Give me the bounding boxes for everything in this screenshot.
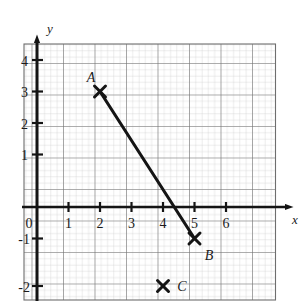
point-label-a: A	[86, 70, 96, 85]
y-tick-label-minus-2: -2	[18, 280, 30, 295]
point-label-b: B	[205, 248, 214, 263]
origin-label: 0	[26, 216, 33, 231]
x-tick-label-4: 4	[160, 216, 167, 231]
coordinate-grid-figure: 1 2 3 4 5 6 0 4 3 2 1 -1 -2 y x	[0, 0, 308, 307]
x-tick-label-2: 2	[97, 216, 104, 231]
y-tick-label-minus-1: -1	[18, 232, 30, 247]
x-tick-label-6: 6	[223, 216, 230, 231]
point-label-c: C	[177, 279, 187, 294]
y-tick-label-2: 2	[21, 117, 28, 132]
x-axis-name: x	[291, 212, 298, 227]
y-tick-label-4: 4	[21, 54, 28, 69]
y-tick-label-1: 1	[21, 148, 28, 163]
grid-paper	[24, 44, 276, 300]
graph-canvas: 1 2 3 4 5 6 0 4 3 2 1 -1 -2 y x	[0, 0, 308, 307]
y-tick-label-3: 3	[21, 85, 28, 100]
x-tick-label-3: 3	[128, 216, 135, 231]
x-tick-label-5: 5	[191, 216, 198, 231]
grid-background	[24, 44, 276, 300]
y-axis-name: y	[45, 21, 53, 36]
x-tick-label-1: 1	[65, 216, 72, 231]
